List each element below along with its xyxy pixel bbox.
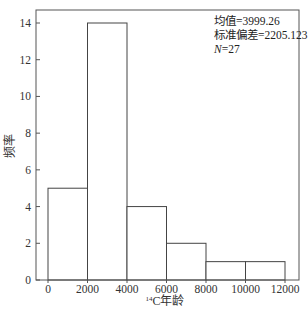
y-axis-ticks: 02468101214: [20, 17, 41, 286]
histogram-bar: [206, 262, 246, 280]
std-label: 标准偏差=2205.123: [214, 28, 308, 42]
y-tick-label: 6: [25, 164, 31, 176]
y-tick-label: 0: [25, 274, 31, 286]
y-tick-label: 12: [20, 54, 32, 66]
histogram-bars: [48, 23, 285, 280]
y-tick-label: 8: [25, 127, 31, 139]
histogram-bar: [88, 23, 128, 280]
x-tick-label: 8000: [195, 283, 218, 295]
x-axis-label: 14C年龄: [145, 294, 184, 308]
histogram-bar: [246, 262, 286, 280]
y-axis-label: 频率: [2, 134, 17, 158]
n-label: N=27: [214, 42, 308, 56]
histogram-bar: [48, 188, 88, 280]
x-tick-label: 4000: [116, 283, 139, 295]
y-tick-label: 14: [20, 17, 32, 29]
stats-legend: 均值=3999.26 标准偏差=2205.123 N=27: [214, 14, 308, 56]
y-tick-label: 4: [25, 201, 31, 213]
histogram-bar: [167, 243, 207, 280]
x-tick-label: 2000: [76, 283, 99, 295]
y-tick-label: 2: [25, 237, 31, 249]
x-tick-label: 12000: [271, 283, 300, 295]
x-tick-label: 0: [45, 283, 51, 295]
x-axis-ticks: 020004000600080001000012000: [45, 280, 300, 295]
mean-label: 均值=3999.26: [214, 14, 308, 28]
y-tick-label: 10: [20, 90, 32, 102]
histogram-bar: [127, 207, 167, 280]
x-tick-label: 10000: [231, 283, 260, 295]
